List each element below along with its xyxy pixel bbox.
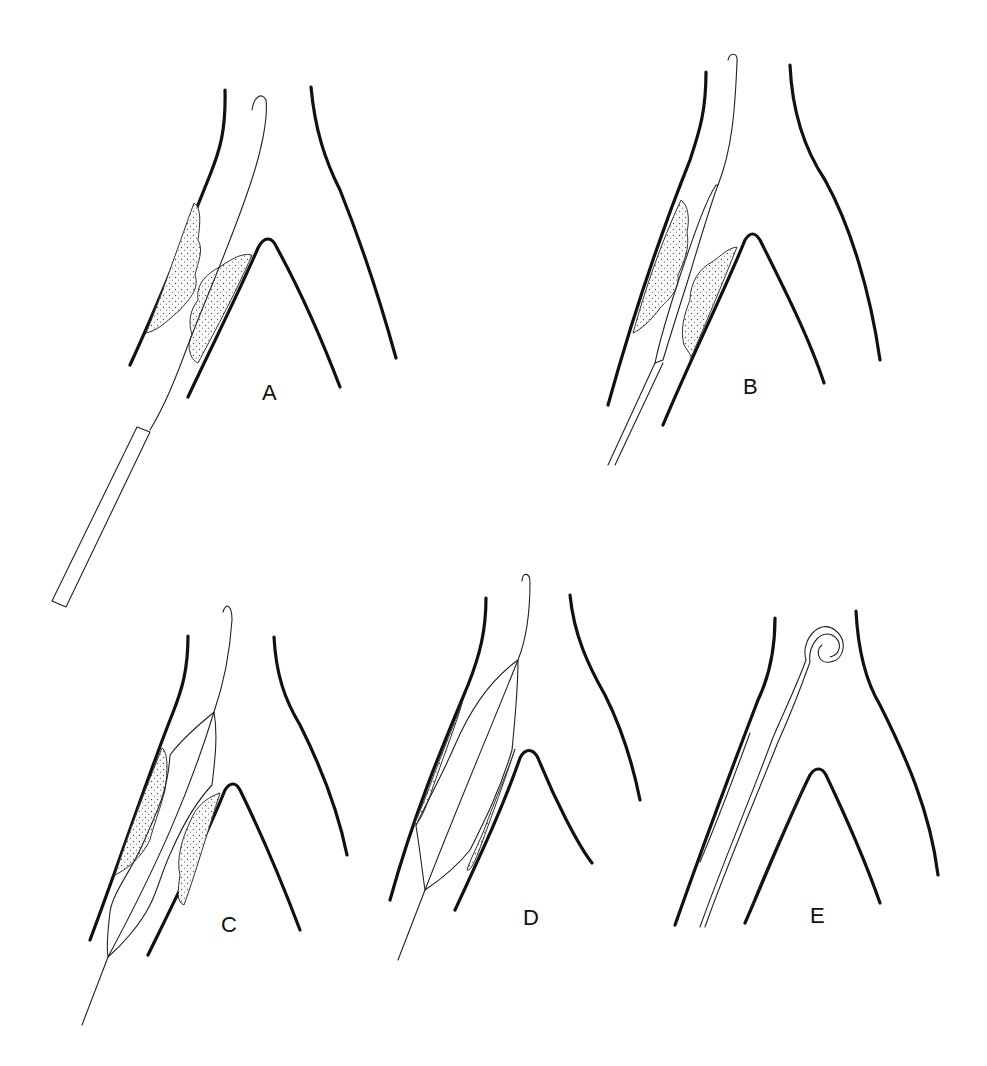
catheter-sheath — [52, 427, 150, 607]
vessel-right-wall — [790, 65, 880, 360]
plaque-right — [682, 247, 737, 360]
plaque-right — [189, 254, 252, 363]
vessel-left-wall — [390, 598, 486, 900]
panel-e: E — [675, 611, 938, 928]
pigtail-catheter — [700, 627, 843, 927]
guidewire — [718, 54, 737, 185]
panel-label-b: B — [743, 374, 758, 399]
panel-label-c: C — [221, 912, 237, 937]
panel-d: D — [390, 574, 640, 960]
plaque-right — [178, 793, 220, 905]
panel-label-e: E — [810, 903, 825, 928]
vessel-right-wall — [856, 611, 938, 875]
panel-label-d: D — [523, 905, 539, 930]
bifurcation-carina — [455, 751, 592, 911]
vessel-left-wall — [90, 636, 188, 940]
guidewire — [398, 574, 530, 960]
vessel-right-wall — [274, 637, 347, 855]
panel-b: B — [608, 54, 880, 465]
angioplasty-diagram: A B C D — [0, 0, 987, 1066]
panel-c: C — [82, 606, 347, 1025]
vessel-right-wall — [570, 595, 640, 800]
panel-a: A — [52, 87, 396, 607]
vessel-right-wall — [311, 87, 396, 358]
residual-plaque-left — [700, 733, 750, 862]
plaque-left-compressed — [414, 700, 463, 826]
bifurcation-carina — [745, 769, 880, 923]
plaque-left — [633, 200, 688, 333]
panel-label-a: A — [262, 380, 277, 405]
